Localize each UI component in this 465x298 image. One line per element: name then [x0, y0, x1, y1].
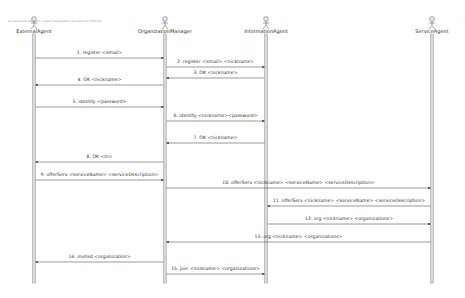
- message-label-11: 11. offerServ <nickname> <serviceName> <…: [273, 198, 425, 203]
- message-label-14: 14. invited <organization>: [68, 254, 130, 259]
- actor-ext: [31, 17, 37, 283]
- message-label-2: 2. register <email> <nickname>: [177, 59, 254, 64]
- message-label-8: 8. OK <In>: [87, 154, 113, 159]
- message-label-3: 3. OK <nickname>: [193, 70, 237, 75]
- actor-head-icon: [264, 17, 269, 22]
- actor-label: ServiceAgent: [415, 28, 448, 34]
- actor-label: OrganizationManager: [138, 28, 192, 34]
- message-label-5: 5. identify <password>: [72, 99, 126, 104]
- message-label-12: 12. org <nickname> <organizations>: [305, 216, 393, 221]
- actor-head-icon: [32, 17, 37, 22]
- message-label-10: 10. offerServ <nickname> <serviceName> <…: [222, 180, 374, 185]
- actor-label: ExternalAgent: [16, 28, 52, 34]
- lifeline-bar: [33, 34, 36, 283]
- actor-head-icon: [430, 17, 435, 22]
- actor-label: InformationAgent: [244, 28, 288, 34]
- message-label-1: 1. register <email>: [77, 50, 122, 55]
- message-label-6: 6. identify <nickname><password>: [173, 113, 257, 118]
- actor-info: [263, 17, 269, 283]
- lifeline-bar: [265, 34, 268, 283]
- message-label-7: 7. OK <nickname>: [193, 135, 237, 140]
- actor-org: [162, 17, 168, 283]
- lifeline-bar: [164, 34, 167, 283]
- sequence-diagram: sd sequence diagram - agent registration…: [0, 0, 465, 298]
- message-label-4: 4. OK <nickname>: [77, 77, 121, 82]
- message-label-13: 13. org <nickname> <organizations>: [255, 234, 343, 239]
- message-label-15: 15. join <nickname> <organizations>: [171, 266, 260, 271]
- actor-head-icon: [163, 17, 168, 22]
- lifeline-bar: [431, 34, 434, 283]
- actor-svc: [429, 17, 435, 283]
- message-label-9: 9. offerServ <serviceName> <serviceDescr…: [41, 172, 159, 177]
